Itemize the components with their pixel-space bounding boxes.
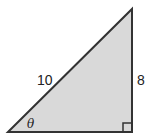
triangle-diagram: 10 8 θ [0,0,148,135]
hypotenuse-label: 10 [37,72,53,88]
right-triangle [8,9,132,132]
angle-theta-label: θ [27,117,35,131]
vertical-side-label: 8 [137,72,145,88]
